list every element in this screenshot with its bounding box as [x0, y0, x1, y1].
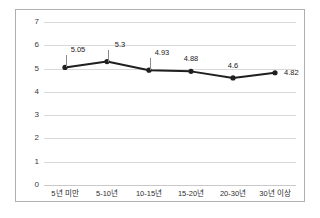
x-axis-tick-label: 30년 이상	[259, 190, 290, 198]
data-point-label: 5.3	[115, 40, 125, 48]
y-axis-tick-label: 4	[35, 88, 39, 96]
y-axis-tick-label: 0	[35, 181, 39, 189]
data-point-label: 4.82	[284, 69, 299, 77]
data-point-label: 4.88	[184, 55, 199, 63]
x-axis-tick-label: 20-30년	[220, 190, 246, 198]
series-line	[65, 62, 275, 78]
x-axis-tick-label: 15-20년	[178, 190, 204, 198]
x-axis-tick-label: 10-15년	[136, 190, 162, 198]
x-axis-tick-labels: 5년 미만5-10년10-15년15-20년20-30년30년 이상	[44, 190, 296, 206]
data-point-marker	[188, 69, 193, 74]
y-axis-tick-label: 1	[35, 158, 39, 166]
y-axis-tick-label: 3	[35, 111, 39, 119]
data-point-label: 4.93	[155, 49, 170, 57]
plot-area: 01234567 5.055.34.934.884.64.82	[44, 22, 296, 185]
y-axis-tick-label: 5	[35, 65, 39, 73]
label-leader-line	[108, 50, 109, 62]
chart-frame: 01234567 5.055.34.934.884.64.82 5년 미만5-1…	[15, 9, 305, 202]
data-point-marker	[230, 75, 235, 80]
label-leader-line	[66, 55, 67, 67]
x-axis-tick-label: 5-10년	[96, 190, 118, 198]
label-leader-line	[150, 58, 151, 70]
data-point-label: 5.05	[71, 46, 86, 54]
y-axis-tick-label: 6	[35, 41, 39, 49]
x-axis-tick-label: 5년 미만	[51, 190, 78, 198]
y-axis-tick-label: 7	[35, 18, 39, 26]
y-axis-tick-label: 2	[35, 134, 39, 142]
data-point-label: 4.6	[228, 61, 238, 69]
data-point-marker	[272, 70, 277, 75]
gridline	[44, 185, 296, 186]
